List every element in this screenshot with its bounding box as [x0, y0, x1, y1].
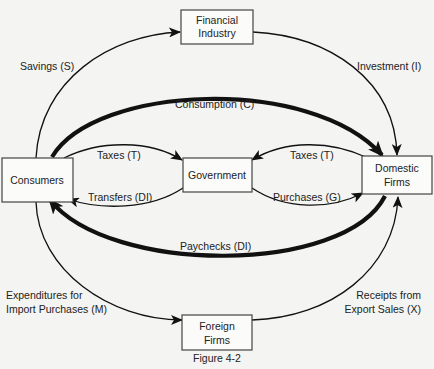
savings-arrow [36, 32, 180, 158]
figure-caption: Figure 4-2 [193, 352, 241, 364]
transfers-label: Transfers (DI) [88, 191, 152, 203]
exports-label-line1: Receipts from [356, 289, 421, 301]
exports-arrow [252, 197, 398, 320]
consumption-label: Consumption (C) [175, 98, 254, 110]
purchases-label: Purchases (G) [273, 191, 341, 203]
exports-label-line2: Export Sales (X) [345, 303, 421, 315]
node-foreign-firms: Foreign Firms [182, 315, 252, 350]
investment-label: Investment (I) [357, 60, 421, 72]
taxes-consumers-label: Taxes (T) [97, 149, 141, 161]
node-label: Firms [384, 176, 410, 188]
imports-label-line1: Expenditures for [6, 289, 83, 301]
savings-label: Savings (S) [20, 60, 74, 72]
circular-flow-diagram: Financial Industry Consumers Government … [0, 0, 434, 369]
node-label: Domestic [375, 162, 419, 174]
node-label: Firms [204, 334, 230, 346]
taxes-firms-label: Taxes (T) [290, 149, 334, 161]
node-consumers: Consumers [2, 158, 73, 202]
node-label: Consumers [10, 174, 64, 186]
node-government: Government [183, 158, 252, 192]
paychecks-label: Paychecks (DI) [180, 240, 251, 252]
node-label: Foreign [199, 320, 235, 332]
node-domestic-firms: Domestic Firms [362, 156, 432, 194]
node-financial-industry: Financial Industry [181, 10, 253, 44]
node-label: Industry [198, 27, 236, 39]
imports-label-line2: Import Purchases (M) [6, 303, 107, 315]
node-label: Financial [196, 14, 238, 26]
node-label: Government [188, 169, 246, 181]
investment-arrow [253, 32, 397, 155]
